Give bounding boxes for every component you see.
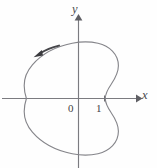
polar-curve-figure: y x 0 1	[0, 0, 157, 168]
axes-group	[2, 14, 143, 168]
x-axis-label: x	[142, 89, 148, 102]
direction-arrow-tail	[40, 46, 59, 54]
origin-label: 0	[68, 103, 74, 114]
x-tick-label-1: 1	[96, 103, 102, 114]
direction-arrow-annotation	[34, 46, 59, 58]
y-axis-label: y	[72, 3, 78, 16]
figure-canvas	[0, 0, 157, 168]
